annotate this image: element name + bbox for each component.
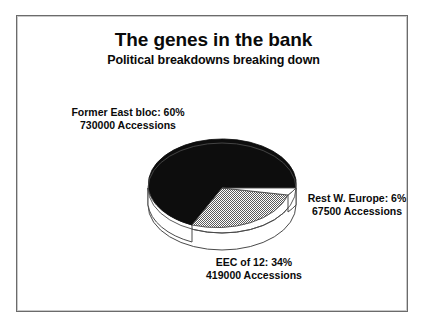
pie-chart-svg — [140, 122, 300, 258]
callout-eec-line1: EEC of 12: 34% — [216, 256, 292, 268]
callout-east-bloc-line1: Former East bloc: 60% — [71, 106, 184, 118]
page-title: The genes in the bank — [0, 29, 427, 51]
callout-west-europe-line1: Rest W. Europe: 6% — [308, 192, 407, 204]
callout-east-bloc: Former East bloc: 60% 730000 Accessions — [63, 106, 193, 131]
callout-east-bloc-line2: 730000 Accessions — [63, 119, 193, 132]
callout-eec: EEC of 12: 34% 419000 Accessions — [185, 256, 323, 281]
page-subtitle: Political breakdowns breaking down — [0, 53, 427, 67]
pie-chart — [140, 122, 300, 258]
callout-west-europe-line2: 67500 Accessions — [293, 205, 421, 218]
callout-west-europe: Rest W. Europe: 6% 67500 Accessions — [293, 192, 421, 217]
slide-canvas: The genes in the bank Political breakdow… — [0, 0, 427, 330]
callout-eec-line2: 419000 Accessions — [185, 269, 323, 282]
